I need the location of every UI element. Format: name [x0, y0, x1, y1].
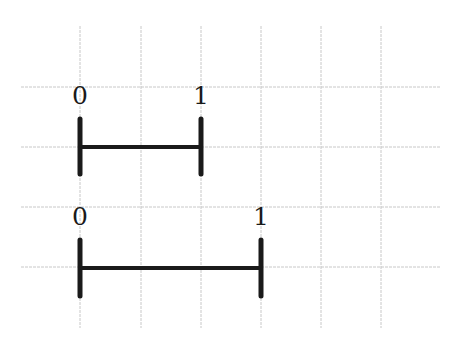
end-label: 1	[193, 81, 209, 110]
end-label: 1	[253, 202, 269, 231]
start-label: 0	[72, 81, 88, 110]
start-label: 0	[72, 202, 88, 231]
grid	[21, 26, 441, 328]
number-line-diagram: 0 1 0 1	[0, 0, 463, 342]
segments: 0 1 0 1	[72, 81, 269, 296]
segment-long: 0 1	[72, 202, 269, 296]
